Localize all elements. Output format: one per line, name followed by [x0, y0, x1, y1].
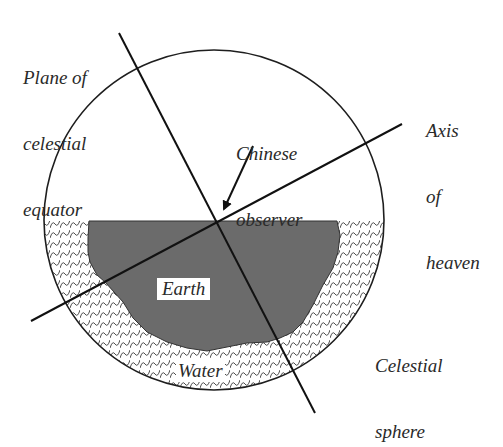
- label-line: heaven: [426, 252, 480, 274]
- label-line: Chinese: [236, 143, 302, 165]
- label-line: equator: [23, 199, 87, 221]
- label-line: observer: [236, 209, 302, 231]
- celestial-sphere-diagram: Plane of celestial equator Axis of heave…: [0, 0, 503, 447]
- label-line: celestial: [23, 133, 87, 155]
- water-label: Water: [176, 360, 225, 382]
- label-line: Axis: [426, 120, 480, 142]
- axis-of-heaven-label: Axis of heaven: [426, 76, 480, 318]
- chinese-observer-label: Chinese observer: [236, 99, 302, 275]
- celestial-sphere-label: Celestial sphere: [375, 311, 443, 447]
- label-line: Plane of: [23, 67, 87, 89]
- label-line: Celestial: [375, 355, 443, 377]
- label-line: sphere: [375, 421, 443, 443]
- earth-label: Earth: [157, 278, 210, 300]
- label-line: of: [426, 186, 480, 208]
- equator-plane-label: Plane of celestial equator: [23, 23, 87, 265]
